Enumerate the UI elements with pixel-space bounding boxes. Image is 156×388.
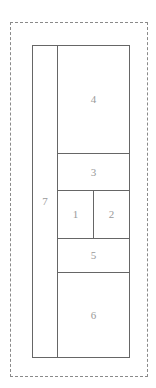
- region-1-label: 1: [73, 209, 79, 220]
- region-6-label: 6: [91, 310, 97, 321]
- region-5-label: 5: [91, 250, 97, 261]
- region-7-label: 7: [42, 196, 48, 207]
- region-2[interactable]: 2: [93, 190, 130, 239]
- region-5[interactable]: 5: [57, 238, 130, 273]
- region-1[interactable]: 1: [57, 190, 94, 239]
- region-3[interactable]: 3: [57, 153, 130, 191]
- region-4[interactable]: 4: [57, 45, 130, 154]
- region-6[interactable]: 6: [57, 272, 130, 358]
- region-3-label: 3: [91, 167, 97, 178]
- region-4-label: 4: [91, 94, 97, 105]
- region-2-label: 2: [109, 209, 115, 220]
- region-7[interactable]: 7: [32, 45, 58, 358]
- diagram-canvas: 7 4 3 1 2 5 6: [0, 0, 156, 388]
